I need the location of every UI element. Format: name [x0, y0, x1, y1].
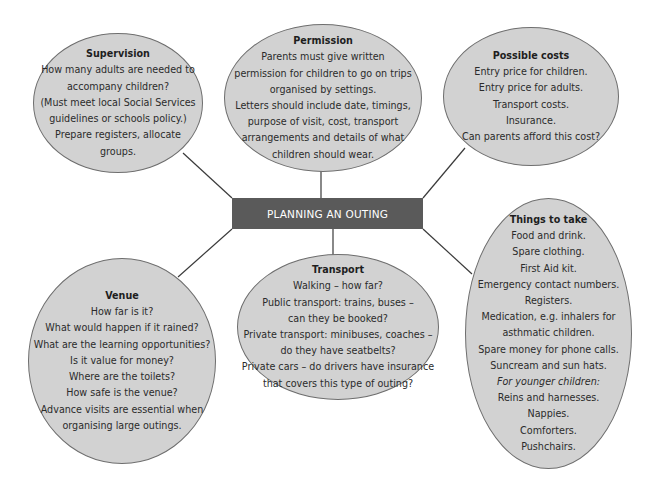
- node-line: How far is it?: [91, 304, 153, 320]
- node-line: Medication, e.g. inhalers for: [481, 309, 615, 325]
- node-title: Supervision: [86, 46, 150, 62]
- node-line: Nappies.: [528, 406, 570, 422]
- center-topic: PLANNING AN OUTING: [232, 198, 423, 229]
- node-line: groups.: [100, 144, 136, 160]
- connector-possible-costs: [423, 148, 465, 198]
- node-line: Spare clothing.: [512, 244, 584, 260]
- node-line: Advance visits are essential when: [41, 402, 204, 418]
- node-possible-costs: Possible costs Entry price for children.…: [443, 27, 619, 166]
- node-line: purpose of visit, cost, transport: [248, 114, 399, 130]
- node-line: Registers.: [525, 293, 573, 309]
- node-line: Parents must give written: [261, 49, 384, 65]
- node-line: Is it value for money?: [70, 353, 174, 369]
- node-line: Public transport: trains, buses –: [262, 295, 413, 311]
- center-topic-label: PLANNING AN OUTING: [267, 208, 388, 220]
- node-line: Comforters.: [520, 423, 577, 439]
- node-supervision: Supervision How many adults are needed t…: [33, 33, 203, 173]
- node-line: organising large outings.: [62, 418, 181, 434]
- node-line: organised by settings.: [270, 82, 377, 98]
- node-line: Pushchairs.: [521, 439, 576, 455]
- node-line: Suncream and sun hats.: [490, 358, 607, 374]
- node-line: children should wear.: [272, 147, 374, 163]
- node-line: Spare money for phone calls.: [478, 342, 619, 358]
- node-line: (Must meet local Social Services: [40, 95, 195, 111]
- node-line: Transport costs.: [493, 97, 569, 113]
- node-title: Transport: [312, 262, 364, 278]
- node-line: Prepare registers, allocate: [55, 127, 181, 143]
- node-title: Things to take: [510, 212, 588, 228]
- node-line: How many adults are needed to: [41, 62, 195, 78]
- node-line: What would happen if it rained?: [45, 320, 198, 336]
- node-line: Can parents afford this cost?: [462, 129, 600, 145]
- node-venue: Venue How far is it? What would happen i…: [28, 258, 216, 464]
- node-line: Private transport: minibuses, coaches –: [243, 327, 432, 343]
- node-line: that covers this type of outing?: [263, 376, 413, 392]
- node-things-to-take: Things to take Food and drink. Spare clo…: [465, 198, 632, 469]
- node-line: Walking – how far?: [293, 278, 383, 294]
- node-line: Entry price for adults.: [479, 80, 583, 96]
- node-line: Letters should include date, timings,: [235, 98, 411, 114]
- node-line: Reins and harnesses.: [498, 390, 600, 406]
- node-line: arrangements and details of what: [242, 130, 405, 146]
- node-transport: Transport Walking – how far? Public tran…: [237, 254, 439, 400]
- connector-supervision: [183, 153, 232, 198]
- node-line: Private cars – do drivers have insurance: [242, 359, 434, 375]
- node-line: Insurance.: [506, 113, 556, 129]
- node-line: First Aid kit.: [520, 261, 577, 277]
- node-line: Emergency contact numbers.: [478, 277, 620, 293]
- node-line: asthmatic children.: [502, 325, 594, 341]
- node-line: guidelines or schools policy.): [49, 111, 187, 127]
- node-title: Permission: [293, 33, 353, 49]
- connector-things-to-take: [423, 229, 472, 274]
- node-title: Venue: [105, 288, 139, 304]
- node-line: permission for children to go on trips: [234, 66, 411, 82]
- node-permission: Permission Parents must give written per…: [224, 24, 422, 172]
- node-line: What are the learning opportunities?: [34, 337, 211, 353]
- node-line: can they be booked?: [288, 311, 388, 327]
- node-line: accompany children?: [67, 79, 169, 95]
- node-line: Food and drink.: [511, 228, 586, 244]
- node-line: How safe is the venue?: [66, 385, 177, 401]
- node-line: Where are the toilets?: [69, 369, 175, 385]
- connector-venue: [178, 229, 232, 277]
- node-subheading: For younger children:: [497, 374, 600, 390]
- node-line: do they have seatbelts?: [280, 343, 395, 359]
- node-title: Possible costs: [493, 48, 570, 64]
- node-line: Entry price for children.: [474, 64, 587, 80]
